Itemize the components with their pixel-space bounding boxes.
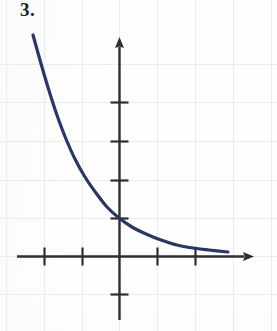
exponential-decay-curve: [33, 35, 228, 252]
worksheet-page: 3.: [0, 0, 277, 331]
grid-lines-vertical: [7, 0, 272, 331]
grid-lines-horizontal: [0, 65, 277, 295]
axes: [17, 47, 244, 320]
exponential-decay-graph: [0, 0, 277, 331]
grid-lines: [0, 0, 277, 331]
